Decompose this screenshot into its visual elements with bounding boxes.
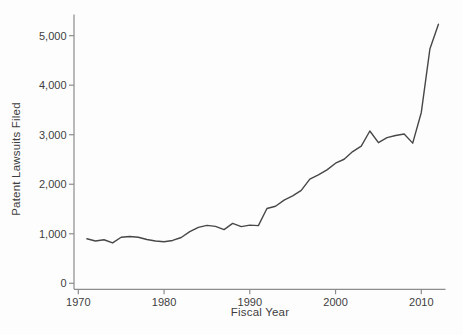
- patent-lawsuits-trend-line: [87, 24, 439, 243]
- y-tick-label: 0: [60, 277, 66, 289]
- patent-lawsuits-figure: 01,0002,0003,0004,0005,00019701980199020…: [0, 0, 463, 335]
- y-tick-label: 4,000: [39, 79, 67, 91]
- y-tick-label: 2,000: [39, 178, 67, 190]
- y-tick-label: 3,000: [39, 129, 67, 141]
- y-tick-label: 5,000: [39, 30, 67, 42]
- y-tick-label: 1,000: [39, 228, 67, 240]
- x-axis-title: Fiscal Year: [74, 306, 446, 318]
- line-chart-canvas: 01,0002,0003,0004,0005,00019701980199020…: [0, 0, 463, 335]
- y-axis-title: Patent Lawsuits Filed: [10, 102, 22, 216]
